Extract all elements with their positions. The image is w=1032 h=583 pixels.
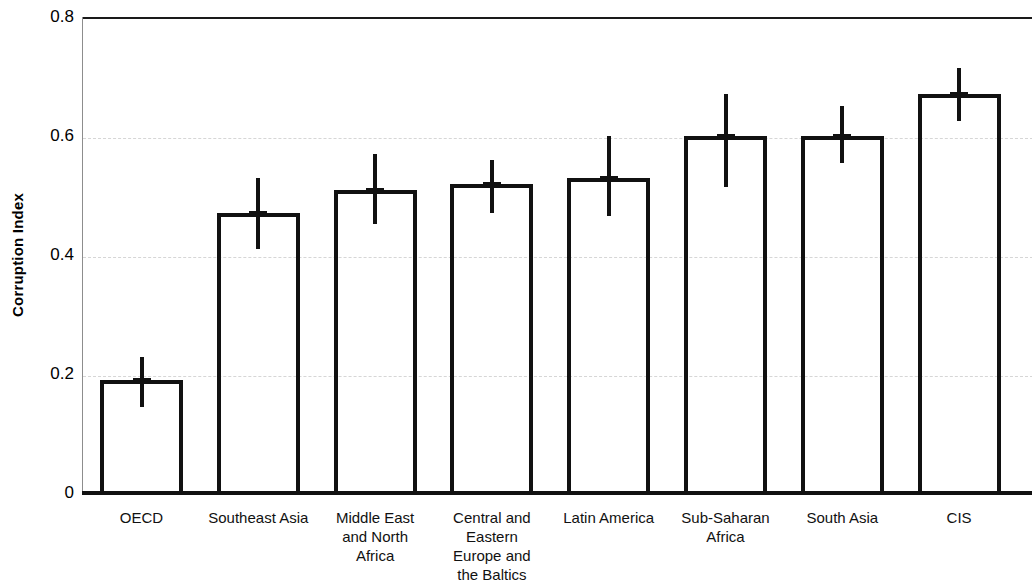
error-bar-cap: [950, 92, 968, 96]
bar: [918, 94, 1001, 495]
x-axis-tick-label-line: Africa: [664, 527, 788, 546]
error-bar-cap: [600, 176, 618, 180]
bars-layer: OECDSoutheast AsiaMiddle Eastand NorthAf…: [0, 0, 1032, 583]
error-bar-cap: [483, 182, 501, 186]
error-bar-cap: [366, 188, 384, 192]
x-axis-tick-label-line: Latin America: [547, 508, 671, 527]
x-axis-tick-label-line: Sub-Saharan: [664, 508, 788, 527]
x-axis-tick-label-line: the Baltics: [430, 565, 554, 583]
x-axis-tick-label-line: South Asia: [780, 508, 904, 527]
x-axis-tick-label: Central andEasternEurope andthe Baltics: [430, 508, 554, 583]
x-axis-tick-label-line: Middle East: [313, 508, 437, 527]
x-axis-tick-label-line: Africa: [313, 546, 437, 565]
error-bar-cap: [249, 211, 267, 215]
corruption-index-bar-chart: Corruption Index 0.80.60.40.20 OECDSouth…: [0, 0, 1032, 583]
bar: [801, 136, 884, 495]
x-axis-tick-label: South Asia: [780, 508, 904, 527]
bar: [684, 136, 767, 495]
x-axis-tick-label: CIS: [897, 508, 1021, 527]
x-axis-tick-label: Latin America: [547, 508, 671, 527]
x-axis-tick-label: Sub-SaharanAfrica: [664, 508, 788, 546]
error-bar: [724, 94, 728, 186]
x-axis-tick-label-line: CIS: [897, 508, 1021, 527]
x-axis-tick-label: Southeast Asia: [196, 508, 320, 527]
error-bar: [490, 160, 494, 214]
x-axis-tick-label: Middle Eastand NorthAfrica: [313, 508, 437, 565]
error-bar-cap: [833, 134, 851, 138]
x-axis-tick-label-line: OECD: [80, 508, 204, 527]
x-axis-tick-label-line: Eastern: [430, 527, 554, 546]
x-axis-tick-label-line: Southeast Asia: [196, 508, 320, 527]
x-axis-tick-label-line: Central and: [430, 508, 554, 527]
error-bar-cap: [133, 378, 151, 382]
x-axis-tick-label-line: Europe and: [430, 546, 554, 565]
x-axis-tick-label: OECD: [80, 508, 204, 527]
bar: [450, 184, 533, 495]
error-bar: [140, 357, 144, 406]
x-axis-tick-label-line: and North: [313, 527, 437, 546]
bar: [334, 190, 417, 495]
error-bar-cap: [717, 134, 735, 138]
bar: [217, 213, 300, 495]
bar: [567, 178, 650, 495]
